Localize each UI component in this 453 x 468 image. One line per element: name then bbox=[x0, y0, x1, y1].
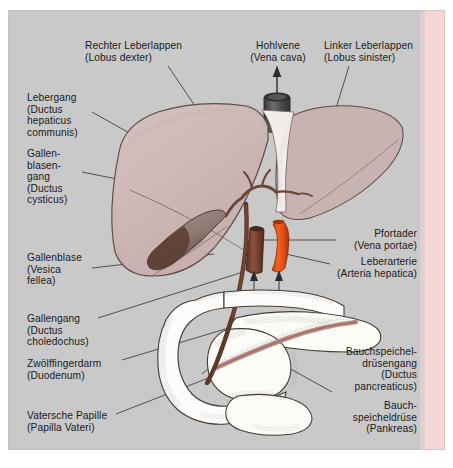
label-vatersche-papille: Vatersche Papille (Papilla Vateri) bbox=[27, 410, 107, 433]
label-leberarterie: Leberarterie (Arteria hepatica) bbox=[277, 256, 417, 279]
label-gallenblase: Gallenblase (Vesica fellea) bbox=[27, 252, 82, 287]
label-gallengang: Gallengang (Ductus choledochus) bbox=[27, 313, 89, 348]
portal-vein bbox=[246, 226, 264, 294]
label-zwoelffingerdarm: Zwölffingerdarm (Duodenum) bbox=[27, 358, 101, 381]
label-bauchspeicheldruesengang: Bauchspeichel- drüsengang (Ductus pancre… bbox=[297, 346, 417, 392]
label-linker-leberlappen: Linker Leberlappen (Lobus sinister) bbox=[324, 40, 413, 63]
label-bauchspeicheldruese: Bauch- speicheldrüse (Pankreas) bbox=[297, 400, 417, 435]
label-rechter-leberlappen: Rechter Leberlappen (Lobus dexter) bbox=[85, 40, 182, 63]
label-pfortader: Pfortader (Vena portae) bbox=[297, 228, 417, 251]
left-liver-lobe bbox=[276, 106, 403, 220]
label-lebergang: Lebergang (Ductus hepaticus communis) bbox=[27, 92, 78, 138]
anatomy-figure: Rechter Leberlappen (Lobus dexter) Hohlv… bbox=[0, 0, 453, 468]
label-gallenblasengang: Gallen- blasen- gang (Ductus cysticus) bbox=[27, 148, 68, 206]
label-hohlvene: Hohlvene (Vena cava) bbox=[243, 40, 313, 63]
